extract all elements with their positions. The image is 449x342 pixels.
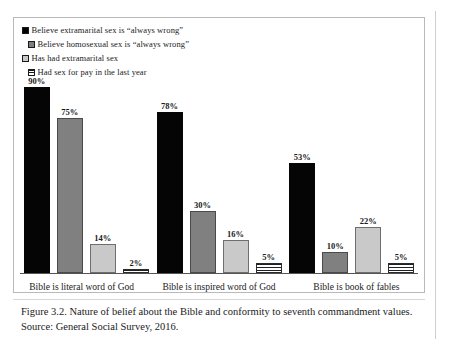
bar-rect (223, 240, 249, 273)
x-axis-label-1: Bible is inspired word of God (150, 281, 287, 293)
legend-item-series-1: Believe extramarital sex is “always wron… (20, 25, 221, 36)
legend-item-series-2: Believe homosexual sex is “always wrong” (20, 39, 227, 50)
bar-series-4-cat-1: 5% (256, 66, 282, 273)
bar-series-2-cat-0: 75% (57, 66, 83, 273)
bar-series-1-cat-0: 90% (24, 66, 50, 273)
legend-label-series-3: Has had extramarital sex (32, 53, 119, 64)
x-axis-category-labels: Bible is literal word of God Bible is in… (13, 281, 425, 293)
bar-groups: 90% 75% 14% 2% 78% (20, 66, 418, 273)
bar-value-label: 16% (216, 229, 256, 239)
chart-figure: Believe extramarital sex is “always wron… (13, 17, 425, 293)
legend-swatch-light-gray-square (22, 55, 29, 62)
bar-value-label: 5% (249, 252, 289, 262)
legend-swatch-solid-black-square (22, 27, 29, 34)
x-axis-label-0: Bible is literal word of God (13, 281, 150, 293)
page-scan-artifact (28, 0, 208, 6)
bar-rect (190, 211, 216, 273)
bar-value-label: 2% (116, 258, 156, 268)
legend-label-series-1: Believe extramarital sex is “always wron… (32, 25, 184, 36)
bar-value-label: 90% (17, 76, 57, 86)
caption-divider (13, 299, 425, 300)
bar-rect (57, 118, 83, 273)
plot-area: 90% 75% 14% 2% 78% (20, 66, 418, 274)
bar-rect (355, 227, 381, 273)
bar-value-label: 22% (348, 216, 388, 226)
figure-caption: Figure 3.2. Nature of belief about the B… (21, 305, 421, 334)
bar-series-3-cat-0: 14% (90, 66, 116, 273)
bar-series-2-cat-2: 10% (322, 66, 348, 273)
bar-series-3-cat-1: 16% (223, 66, 249, 273)
legend-label-series-2: Believe homosexual sex is “always wrong” (38, 39, 190, 50)
bar-value-label: 75% (50, 107, 90, 117)
bar-rect (289, 163, 315, 273)
bar-series-2-cat-1: 30% (190, 66, 216, 273)
bar-series-4-cat-2: 5% (388, 66, 414, 273)
bar-group-0: 90% 75% 14% 2% (20, 66, 153, 273)
bar-rect (24, 87, 50, 273)
bar-value-label: 10% (315, 241, 355, 251)
bar-group-2: 53% 10% 22% 5% (285, 66, 418, 273)
bar-rect (322, 252, 348, 273)
bar-value-label: 5% (381, 252, 421, 262)
bar-value-label: 30% (183, 200, 223, 210)
bar-rect (157, 112, 183, 273)
bar-value-label: 53% (282, 152, 322, 162)
bar-rect (388, 263, 414, 273)
bar-rect (90, 244, 116, 273)
bar-series-3-cat-2: 22% (355, 66, 381, 273)
bar-series-4-cat-0: 2% (123, 66, 149, 273)
bar-series-1-cat-2: 53% (289, 66, 315, 273)
bar-group-1: 78% 30% 16% 5% (153, 66, 286, 273)
legend-swatch-gray-square (28, 41, 35, 48)
bar-value-label: 78% (150, 101, 190, 111)
bar-value-label: 14% (83, 233, 123, 243)
x-axis-line (20, 273, 418, 274)
bar-rect (256, 263, 282, 273)
bar-series-1-cat-1: 78% (157, 66, 183, 273)
legend-item-series-3: Has had extramarital sex (20, 53, 221, 64)
x-axis-label-2: Bible is book of fables (288, 281, 425, 293)
